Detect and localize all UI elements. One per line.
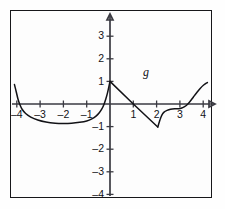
x-tick-label--1: –1 [81, 108, 93, 120]
y-tick-label-2: 2 [98, 52, 104, 64]
y-tick-label--3: –3 [92, 165, 104, 177]
x-tick-label-2: 2 [154, 108, 160, 120]
x-tick-label-3: 3 [177, 108, 183, 120]
x-tick-label-4: 4 [200, 108, 206, 120]
x-tick-label--4: –4 [11, 108, 23, 120]
y-tick-label--2: –2 [92, 142, 104, 154]
axes [12, 14, 215, 196]
x-axis-tick-labels: –4–3–2–11234 [11, 108, 206, 120]
function-label-g: g [143, 65, 149, 79]
x-tick-label--2: –2 [58, 108, 70, 120]
y-tick-label--1: –1 [92, 120, 104, 132]
graph-figure: g –4–3–2–11234 321–1–2–3–4 [0, 0, 225, 209]
y-tick-label--4: –4 [92, 188, 104, 200]
y-tick-label-3: 3 [98, 29, 104, 41]
graph-canvas: g –4–3–2–11234 321–1–2–3–4 [0, 0, 225, 209]
y-tick-label-1: 1 [98, 75, 104, 87]
x-tick-label-1: 1 [130, 108, 136, 120]
x-tick-label--3: –3 [34, 108, 46, 120]
